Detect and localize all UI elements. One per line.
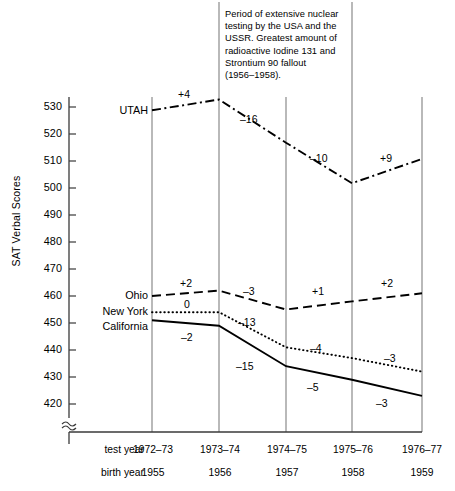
- y-tick-label-500: 500: [28, 181, 62, 193]
- series-label-california: California: [50, 320, 148, 332]
- x-tick-label-1972-73: 1972–73: [120, 444, 186, 455]
- annotation-text-block: Period of extensive nuclear testing by t…: [225, 8, 347, 81]
- x-tick-label-1976-77: 1976–77: [389, 444, 455, 455]
- delta-label-new-york-1: 0: [184, 298, 190, 310]
- y-axis-title: SAT Verbal Scores: [10, 161, 22, 281]
- birth-year-label-1955: 1955: [120, 467, 186, 478]
- birth-year-label-1956: 1956: [187, 467, 253, 478]
- series-line-ohio: [152, 291, 422, 310]
- sat-verbal-scores-chart: Period of extensive nuclear testing by t…: [0, 0, 455, 491]
- axis-break-icon: [62, 422, 76, 430]
- annotation-line: (1956–1958).: [225, 69, 347, 81]
- series-label-new-york: New York: [50, 305, 148, 317]
- series-label-ohio: Ohio: [60, 289, 148, 301]
- delta-label-new-york-3: –4: [310, 342, 322, 354]
- y-tick-marks: [69, 107, 76, 404]
- delta-label-california-1: –2: [181, 331, 193, 343]
- annotation-line: radioactive Iodine 131 and: [225, 45, 347, 57]
- birth-year-label-1957: 1957: [254, 467, 320, 478]
- y-tick-label-480: 480: [28, 235, 62, 247]
- x-tick-label-1974-75: 1974–75: [254, 444, 320, 455]
- y-tick-label-440: 440: [28, 343, 62, 355]
- y-tick-label-490: 490: [28, 208, 62, 220]
- delta-label-utah-2: –16: [240, 113, 258, 125]
- y-tick-label-430: 430: [28, 370, 62, 382]
- annotation-line: USSR. Greatest amount of: [225, 32, 347, 44]
- y-tick-label-530: 530: [28, 100, 62, 112]
- y-tick-label-420: 420: [28, 397, 62, 409]
- y-tick-label-520: 520: [28, 127, 62, 139]
- annotation-line: testing by the USA and the: [225, 20, 347, 32]
- delta-label-california-3: –5: [307, 381, 319, 393]
- delta-label-ohio-3: +1: [312, 285, 324, 297]
- annotation-line: Period of extensive nuclear: [225, 8, 347, 20]
- delta-label-utah-4: +9: [380, 152, 392, 164]
- y-tick-label-470: 470: [28, 262, 62, 274]
- delta-label-utah-3: –10: [310, 152, 328, 164]
- x-tick-label-1975-76: 1975–76: [320, 444, 386, 455]
- y-tick-label-510: 510: [28, 154, 62, 166]
- delta-label-ohio-4: +2: [381, 277, 393, 289]
- birth-year-label-1958: 1958: [320, 467, 386, 478]
- delta-label-utah-1: +4: [178, 88, 190, 100]
- delta-label-new-york-4: –3: [384, 352, 396, 364]
- birth-year-label-1959: 1959: [389, 467, 455, 478]
- delta-label-ohio-1: +2: [180, 277, 192, 289]
- y-tick-label-460: 460: [28, 289, 62, 301]
- delta-label-california-4: –3: [376, 397, 388, 409]
- x-tick-label-1973-74: 1973–74: [187, 444, 253, 455]
- annotation-line: Strontium 90 fallout: [225, 57, 347, 69]
- delta-label-new-york-2: –13: [238, 316, 256, 328]
- series-line-utah: [152, 100, 422, 184]
- series-label-utah: UTAH: [60, 104, 148, 116]
- delta-label-california-2: –15: [236, 360, 254, 372]
- delta-label-ohio-2: –3: [243, 285, 255, 297]
